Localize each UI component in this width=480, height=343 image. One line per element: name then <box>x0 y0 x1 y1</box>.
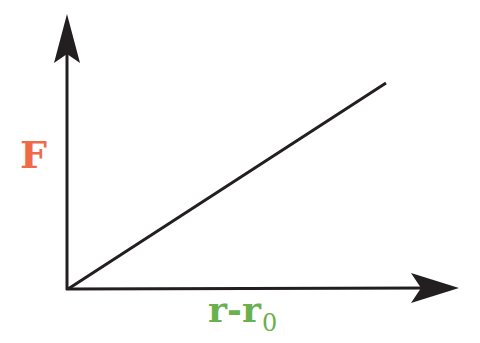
data-line <box>68 83 386 289</box>
x-axis-label-subscript: 0 <box>262 309 277 337</box>
y-axis-label: F <box>20 136 47 174</box>
y-axis-label-text: F <box>20 132 47 177</box>
x-axis-label-main: r-r <box>208 288 261 330</box>
x-axis-label: r-r0 <box>208 291 277 327</box>
